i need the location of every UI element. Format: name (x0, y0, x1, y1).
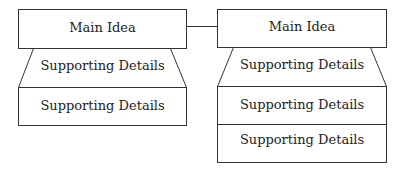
left-detail-label-2: Supporting Details (18, 98, 187, 114)
right-detail-label-3: Supporting Details (217, 132, 387, 148)
right-detail-label-2: Supporting Details (217, 97, 387, 113)
left-detail-label-1: Supporting Details (18, 58, 187, 74)
right-main-idea-label: Main Idea (217, 19, 387, 35)
right-detail-label-1: Supporting Details (217, 57, 387, 73)
left-main-idea-label: Main Idea (18, 20, 187, 36)
